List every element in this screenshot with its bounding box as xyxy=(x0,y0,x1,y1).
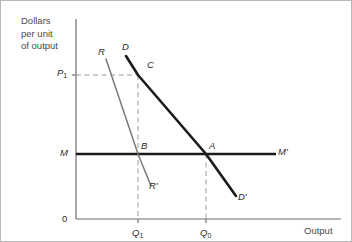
p1-subscript: 1 xyxy=(63,72,67,79)
curve-label-m-prime: M' xyxy=(278,146,288,159)
revenue-curve-rr xyxy=(106,59,151,186)
curve-label-d-prime: D' xyxy=(238,191,247,204)
curve-label-d: D xyxy=(122,41,129,54)
y-tick-label-p1: P1 xyxy=(57,67,67,80)
y-tick-label-m: M xyxy=(60,147,68,160)
economics-diagram: Dollars per unit of output Output 0 P1 M… xyxy=(0,0,352,242)
q1-subscript: 1 xyxy=(139,232,143,239)
point-label-c: C xyxy=(147,59,154,72)
x-tick-label-q0: Q0 xyxy=(200,227,211,240)
x-tick-label-q1: Q1 xyxy=(132,227,143,240)
y-axis-title: Dollars per unit of output xyxy=(21,15,58,53)
q0-subscript: 0 xyxy=(207,232,211,239)
curve-label-r: R xyxy=(98,46,105,59)
demand-curve-dd xyxy=(126,56,236,196)
x-axis-title: Output xyxy=(304,225,333,238)
point-label-a: A xyxy=(209,140,215,153)
curve-label-r-prime: R' xyxy=(149,180,158,193)
point-label-b: B xyxy=(141,140,147,153)
origin-label: 0 xyxy=(62,213,67,226)
